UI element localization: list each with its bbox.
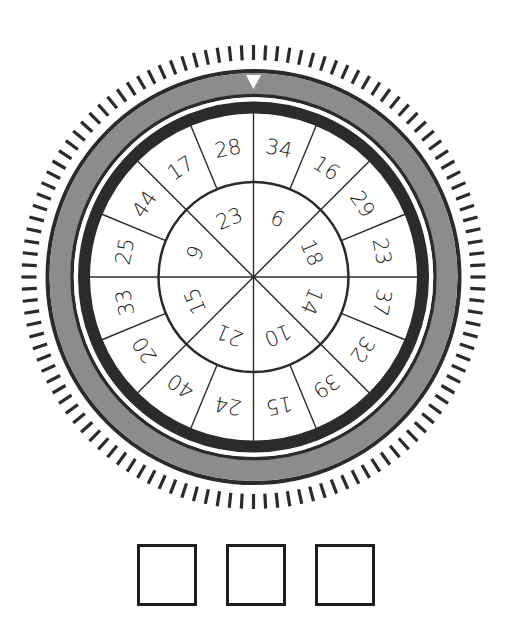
tick-mark xyxy=(362,465,370,478)
tick-mark xyxy=(98,438,108,449)
tick-mark xyxy=(441,161,454,169)
tick-mark xyxy=(287,491,289,506)
tick-mark xyxy=(470,288,485,289)
tick-mark xyxy=(310,487,314,501)
tick-mark xyxy=(429,141,441,150)
tick-mark xyxy=(23,300,38,302)
outer-sector-number[interactable]: 33 xyxy=(111,287,140,318)
tick-mark xyxy=(127,82,135,95)
tick-mark xyxy=(342,475,348,489)
outer-sector-number[interactable]: 28 xyxy=(212,134,243,163)
tick-mark xyxy=(276,493,278,508)
tick-mark xyxy=(23,253,38,255)
tick-mark xyxy=(399,105,409,116)
tick-mark xyxy=(193,487,197,501)
tick-mark xyxy=(415,122,426,132)
tick-mark xyxy=(42,183,56,189)
tick-mark xyxy=(138,76,146,89)
tick-mark xyxy=(170,60,175,74)
tick-mark xyxy=(342,65,348,79)
tick-mark xyxy=(352,70,359,83)
tick-mark xyxy=(33,205,47,210)
tick-mark xyxy=(331,60,336,74)
tick-mark xyxy=(205,489,208,504)
tick-mark xyxy=(29,217,43,221)
tick-mark xyxy=(229,493,231,508)
tick-mark xyxy=(415,422,426,432)
tick-mark xyxy=(81,422,92,432)
tick-mark xyxy=(170,480,175,494)
tick-mark xyxy=(456,194,470,199)
tick-mark xyxy=(98,105,108,116)
tick-mark xyxy=(59,395,72,403)
tick-mark xyxy=(287,48,289,63)
tick-mark xyxy=(205,50,208,65)
tick-mark xyxy=(466,322,481,325)
answer-box-1[interactable] xyxy=(137,544,197,606)
tick-mark xyxy=(229,46,231,61)
answer-box-3[interactable] xyxy=(315,544,375,606)
outer-sector-number[interactable]: 24 xyxy=(212,391,243,420)
tick-mark xyxy=(37,194,51,199)
tick-mark xyxy=(193,53,197,67)
tick-mark xyxy=(42,365,56,371)
tick-mark xyxy=(463,333,477,337)
tick-mark xyxy=(27,229,42,232)
tick-mark xyxy=(81,122,92,132)
tick-mark xyxy=(66,141,78,150)
tick-mark xyxy=(372,459,380,472)
outer-sector-number[interactable]: 37 xyxy=(368,287,397,318)
tick-mark xyxy=(429,405,441,414)
tick-mark xyxy=(466,229,481,232)
tick-mark xyxy=(66,405,78,414)
tick-mark xyxy=(447,376,460,383)
tick-mark xyxy=(241,45,242,60)
tick-mark xyxy=(381,453,390,465)
tick-mark xyxy=(138,465,146,478)
tick-mark xyxy=(33,344,47,349)
tick-mark xyxy=(59,151,72,159)
tick-mark xyxy=(468,311,483,313)
tick-mark xyxy=(321,56,326,70)
tick-mark xyxy=(469,300,484,302)
tick-mark xyxy=(390,446,399,458)
tick-mark xyxy=(310,53,314,67)
tick-mark xyxy=(321,483,326,497)
tick-mark xyxy=(276,46,278,61)
tick-mark xyxy=(22,265,37,266)
outer-sector-number[interactable]: 15 xyxy=(264,391,295,420)
tick-mark xyxy=(182,56,187,70)
center-hub xyxy=(252,275,256,279)
answer-boxes xyxy=(0,544,505,606)
tick-mark xyxy=(53,386,66,394)
tick-mark xyxy=(381,89,390,101)
tick-mark xyxy=(27,322,42,325)
tick-mark xyxy=(468,241,483,243)
tick-mark xyxy=(362,76,370,89)
tick-mark xyxy=(469,253,484,255)
tick-mark xyxy=(265,45,266,60)
tick-mark xyxy=(24,241,39,243)
tick-mark xyxy=(452,183,466,189)
tick-mark xyxy=(159,65,165,79)
tick-mark xyxy=(460,205,474,210)
tick-mark xyxy=(89,430,100,441)
tick-mark xyxy=(37,355,51,360)
outer-sector-number[interactable]: 34 xyxy=(264,134,295,163)
tick-mark xyxy=(435,395,448,403)
tick-mark xyxy=(117,453,126,465)
tick-mark xyxy=(331,480,336,494)
tick-mark xyxy=(299,489,302,504)
answer-box-2[interactable] xyxy=(226,544,286,606)
outer-sector-number[interactable]: 23 xyxy=(368,236,397,267)
outer-sector-number[interactable]: 25 xyxy=(111,236,140,267)
tick-mark xyxy=(470,265,485,266)
tick-mark xyxy=(463,217,477,221)
tick-mark xyxy=(107,446,116,458)
tick-mark xyxy=(407,430,418,441)
tick-mark xyxy=(441,386,454,394)
tick-mark xyxy=(53,161,66,169)
tick-mark xyxy=(435,151,448,159)
tick-mark xyxy=(456,355,470,360)
tick-mark xyxy=(73,414,85,423)
